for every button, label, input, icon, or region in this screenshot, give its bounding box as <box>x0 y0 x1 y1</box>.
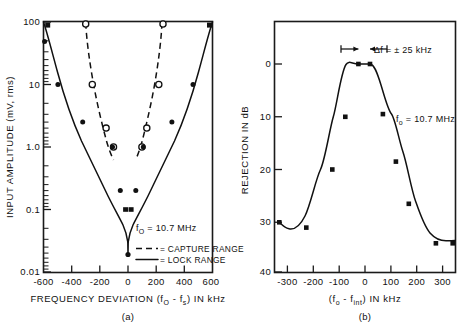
panel-b-xtick-2: -100 <box>329 276 349 287</box>
panel-b-xtick-3: 0 <box>362 276 368 287</box>
panel-b-xtick-5: 200 <box>408 276 425 287</box>
data-point <box>381 112 386 117</box>
panel-a-x-axis-title: FREQUENCY DEVIATION (fO - fs) IN kHz <box>30 293 225 306</box>
panel-b-x-axis-title: (fo - fint) IN kHz <box>329 293 401 306</box>
capture-range-points <box>83 21 166 150</box>
delta-f-annotation: Δf = ± 25 kHz <box>341 45 432 55</box>
panel-a-xtick-4: 200 <box>148 276 165 287</box>
figure-svg: 100 10 1.0 0.1 0.01 -600 -400 -200 0 200… <box>0 0 467 334</box>
panel-b-xtick-6: 300 <box>434 276 451 287</box>
data-point <box>125 252 130 257</box>
panel-a-xtick-3: 0 <box>125 276 131 287</box>
panel-a-xtick-5: 400 <box>176 276 193 287</box>
panel-b-xtick-4: 100 <box>383 276 400 287</box>
data-point <box>434 241 439 246</box>
data-point <box>129 207 134 212</box>
data-point <box>118 188 123 193</box>
panel-a-ytick-3: 0.1 <box>26 204 40 215</box>
data-point <box>123 207 128 212</box>
panel-a-ytick-2: 1.0 <box>26 141 40 152</box>
panel-b-ytick-3: 30 <box>260 216 271 227</box>
panel-a-caption: (a) <box>122 311 135 322</box>
panel-b-y-axis-title: REJECTION IN dB <box>239 106 250 195</box>
panel-a-ytick-0: 100 <box>23 16 40 27</box>
data-point <box>330 167 335 172</box>
data-point <box>169 120 174 125</box>
panel-a-legend: = CAPTURE RANGE = LOCK RANGE <box>136 244 244 265</box>
panel-a-f0-annotation: fO = 10.7 MHz <box>136 223 197 235</box>
data-point <box>407 202 412 207</box>
panel-a-xtick-6: 600 <box>203 276 220 287</box>
data-point <box>356 62 361 67</box>
panel-a-frame <box>44 22 213 273</box>
data-point <box>144 125 150 131</box>
panel-a-x-tick-labels: -600 -400 -200 0 200 400 600 <box>33 276 219 287</box>
legend-label-lock-range: = LOCK RANGE <box>160 255 226 265</box>
figure-container: 100 10 1.0 0.1 0.01 -600 -400 -200 0 200… <box>0 0 467 334</box>
data-point <box>343 115 348 120</box>
panel-a-y-tick-labels: 100 10 1.0 0.1 0.01 <box>20 16 40 277</box>
data-point <box>304 225 309 230</box>
panel-b-x-tick-labels: -300 -200 -100 0 100 200 300 <box>277 276 451 287</box>
panel-a-xtick-1: -400 <box>62 276 82 287</box>
panel-a-x-ticks <box>72 266 185 273</box>
data-point <box>156 81 162 87</box>
data-point <box>83 21 89 27</box>
panel-b-ytick-0: 0 <box>265 58 271 69</box>
rejection-curve <box>279 62 455 240</box>
data-point <box>394 159 399 164</box>
panel-b: 0 10 20 30 40 -300 -200 -100 0 100 200 3… <box>239 22 456 323</box>
panel-b-y-ticks <box>275 64 283 272</box>
panel-b-caption: (b) <box>359 311 372 322</box>
data-point <box>45 23 50 28</box>
data-point <box>277 220 282 225</box>
panel-a-xtick-2: -200 <box>90 276 110 287</box>
panel-b-x-ticks <box>287 266 442 273</box>
data-point <box>141 145 146 150</box>
panel-b-y-tick-labels: 0 10 20 30 40 <box>260 58 271 277</box>
lock-range-curve-left <box>44 22 128 242</box>
panel-b-ytick-1: 10 <box>260 111 271 122</box>
data-point <box>80 120 85 125</box>
panel-b-xtick-1: -200 <box>303 276 323 287</box>
data-point <box>133 188 138 193</box>
panel-b-ytick-4: 40 <box>260 266 271 277</box>
data-point <box>207 23 212 28</box>
lock-range-curve-right <box>128 22 212 242</box>
data-point <box>103 125 109 131</box>
panel-a: 100 10 1.0 0.1 0.01 -600 -400 -200 0 200… <box>4 16 244 322</box>
panel-b-frame <box>275 22 456 273</box>
delta-f-label: Δf = ± 25 kHz <box>374 45 432 55</box>
data-point <box>55 82 60 87</box>
data-point <box>450 241 455 246</box>
data-point <box>160 21 166 27</box>
panel-a-y-axis-title: INPUT AMPLITUDE (mV, rms) <box>4 76 15 218</box>
panel-a-ytick-1: 10 <box>29 79 40 90</box>
panel-b-ytick-2: 20 <box>260 164 271 175</box>
data-point <box>368 62 373 67</box>
capture-range-curve-right <box>136 23 162 160</box>
panel-a-xtick-0: -600 <box>33 276 53 287</box>
data-point <box>42 39 47 44</box>
panel-b-f0-annotation: fo = 10.7 MHz <box>396 114 455 126</box>
data-point <box>110 145 115 150</box>
panel-b-xtick-0: -300 <box>277 276 297 287</box>
data-point <box>89 81 95 87</box>
lock-range-points <box>42 23 212 258</box>
data-point <box>191 82 196 87</box>
capture-range-curve-left <box>86 23 114 160</box>
legend-label-capture-range: = CAPTURE RANGE <box>160 244 244 254</box>
